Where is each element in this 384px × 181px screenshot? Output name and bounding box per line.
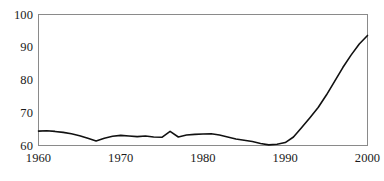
x-tick-label-1990: 1990 [273,152,298,165]
x-tick-label-2000: 2000 [355,152,380,165]
x-tick-label-1960: 1960 [26,152,51,165]
y-tick-label-90: 90 [0,41,33,54]
plot-frame [39,15,368,146]
x-tick-label-1980: 1980 [190,152,215,165]
data-series-line [39,35,368,144]
chart-figure: 100 90 80 70 60 1960 1970 1980 1990 2000 [0,0,384,181]
x-tick-label-1970: 1970 [108,152,133,165]
y-tick-label-100: 100 [0,8,33,21]
y-tick-label-60: 60 [0,139,33,152]
y-tick-label-80: 80 [0,74,33,87]
y-tick-label-70: 70 [0,107,33,120]
